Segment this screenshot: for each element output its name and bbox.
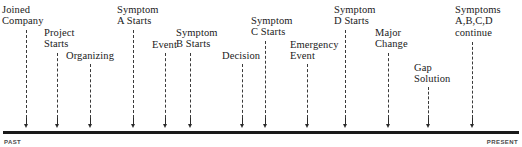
leader-line-symptom-c-starts (265, 41, 266, 118)
leader-line-project-starts (57, 53, 58, 118)
arrow-head-icon (426, 124, 430, 128)
timeline-axis-line (3, 131, 519, 134)
arrow-head-icon (386, 124, 390, 128)
leader-line-organizing (90, 64, 91, 118)
event-label-project-starts: Project Starts (44, 27, 74, 50)
leader-line-joined-company (26, 30, 27, 118)
event-label-symptom-b-starts: Symptom B Starts (176, 27, 218, 50)
event-label-gap-solution: Gap Solution (414, 62, 450, 85)
event-label-symptom-c-starts: Symptom C Starts (251, 15, 293, 38)
arrow-head-icon (263, 124, 267, 128)
arrow-head-icon (470, 124, 474, 128)
arrow-head-icon (24, 124, 28, 128)
event-label-symptom-d-starts: Symptom D Starts (334, 4, 376, 27)
arrow-head-icon (240, 124, 244, 128)
event-label-symptom-a-starts: Symptom A Starts (117, 4, 159, 27)
axis-caption-present: PRESENT (487, 139, 518, 145)
leader-line-emergency-event (307, 64, 308, 118)
event-label-symptoms-a-b-c-d-continue: Symptoms A,B,C,D continue (455, 4, 501, 38)
arrow-head-icon (305, 124, 309, 128)
leader-line-symptom-b-starts (190, 53, 191, 118)
arrow-head-icon (188, 124, 192, 128)
leader-line-gap-solution (428, 87, 429, 118)
leader-line-major-change (388, 53, 389, 118)
leader-line-symptoms-a-b-c-d-continue (472, 42, 473, 118)
arrow-head-icon (88, 124, 92, 128)
axis-caption-past: PAST (4, 139, 21, 145)
leader-line-event (165, 53, 166, 118)
timeline-diagram: Joined CompanyProject StartsOrganizingSy… (0, 0, 522, 147)
event-label-major-change: Major Change (375, 27, 408, 50)
event-label-organizing: Organizing (66, 50, 114, 61)
event-label-decision: Decision (222, 50, 260, 61)
arrow-head-icon (55, 124, 59, 128)
arrow-head-icon (163, 124, 167, 128)
event-label-event: Event (152, 39, 177, 50)
event-label-emergency-event: Emergency Event (290, 39, 339, 62)
leader-line-decision (242, 64, 243, 118)
arrow-head-icon (343, 124, 347, 128)
leader-line-symptom-a-starts (133, 30, 134, 118)
arrow-head-icon (131, 124, 135, 128)
event-label-joined-company: Joined Company (2, 4, 44, 27)
leader-line-symptom-d-starts (345, 30, 346, 118)
